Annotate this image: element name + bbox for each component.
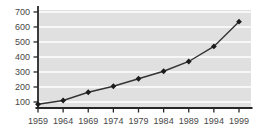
y-tick-label: 300 xyxy=(15,67,30,77)
x-tick-label: 1969 xyxy=(78,116,98,126)
y-tick-label: 500 xyxy=(15,37,30,47)
y-tick-label: 700 xyxy=(15,7,30,17)
chart-image: 1002003004005006007001959196419691974197… xyxy=(0,0,260,133)
x-tick-label: 1959 xyxy=(28,116,48,126)
x-tick-label: 1964 xyxy=(53,116,73,126)
x-tick-label: 1994 xyxy=(204,116,224,126)
x-tick-label: 1974 xyxy=(103,116,123,126)
y-tick-label: 200 xyxy=(15,82,30,92)
x-tick-label: 1989 xyxy=(179,116,199,126)
y-tick-label: 600 xyxy=(15,22,30,32)
line-chart: 1002003004005006007001959196419691974197… xyxy=(0,0,260,133)
x-tick-label: 1999 xyxy=(229,116,249,126)
x-tick-label: 1979 xyxy=(128,116,148,126)
y-tick-label: 400 xyxy=(15,52,30,62)
x-tick-label: 1984 xyxy=(154,116,174,126)
plot-area xyxy=(38,10,251,108)
y-tick-label: 100 xyxy=(15,97,30,107)
